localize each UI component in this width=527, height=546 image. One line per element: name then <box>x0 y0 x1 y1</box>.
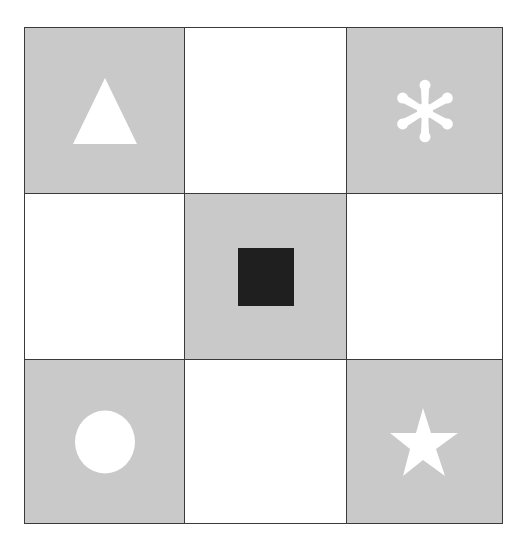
asterisk-icon <box>395 78 455 144</box>
square-icon <box>238 248 294 306</box>
cell-r2-c3 <box>347 194 502 360</box>
cell-r3-c3 <box>347 360 502 523</box>
cell-r2-c1 <box>25 194 185 360</box>
circle-icon <box>74 410 136 474</box>
cell-r1-c2 <box>185 28 347 194</box>
triangle-icon <box>70 76 140 146</box>
cell-r1-c3 <box>347 28 502 194</box>
star-icon <box>390 407 460 477</box>
symbol-grid <box>24 27 503 524</box>
cell-r3-c2 <box>185 360 347 523</box>
cell-r3-c1 <box>25 360 185 523</box>
cell-r1-c1 <box>25 28 185 194</box>
cell-r2-c2 <box>185 194 347 360</box>
